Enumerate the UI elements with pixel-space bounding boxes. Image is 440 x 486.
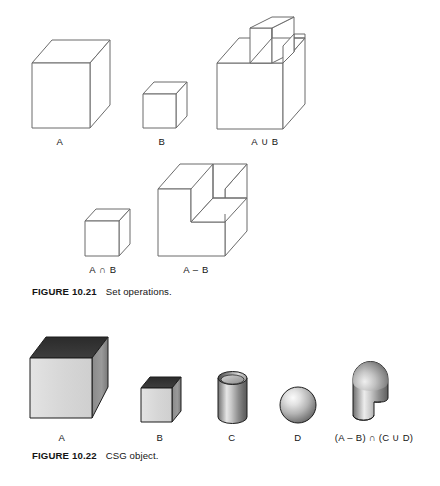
solid-cube-a-shape [30, 337, 108, 418]
figure-page: A B A ∪ B A ∩ B A – B FIGURE 10.21Set op… [0, 0, 440, 486]
label-intersection-a-b: A ∩ B [89, 264, 116, 275]
figure-10-21: A B A ∪ B A ∩ B A – B FIGURE 10.21Set op… [0, 0, 440, 310]
label-solid-cube-a: A [59, 432, 66, 443]
caption-title: FIGURE 10.21 [32, 286, 97, 297]
label-solid-cube-b: B [157, 432, 164, 443]
solid-cylinder-c-shape [218, 372, 247, 424]
caption-text: CSG object. [106, 450, 159, 461]
label-cube-a: A [57, 136, 64, 147]
union-a-b-shape [217, 17, 305, 129]
label-difference-a-b: A – B [183, 264, 209, 275]
cube-a-shape [32, 40, 110, 128]
difference-a-b-shape [158, 164, 247, 256]
label-solid-sphere-d: D [294, 432, 301, 443]
csg-result-shape [353, 362, 388, 421]
label-cube-b: B [159, 136, 166, 147]
figure-10-22: A B C D (A – B) ∩ (C ∪ D) FIGURE 10.22CS… [0, 312, 440, 486]
caption-title: FIGURE 10.22 [32, 450, 97, 461]
intersection-a-b-shape [85, 209, 130, 256]
label-union-a-b: A ∪ B [251, 136, 278, 147]
solid-cube-b-shape [141, 377, 181, 422]
cube-b-shape [143, 82, 187, 128]
label-csg-result: (A – B) ∩ (C ∪ D) [335, 432, 414, 443]
caption-figure-10-22: FIGURE 10.22CSG object. [32, 450, 159, 461]
caption-figure-10-21: FIGURE 10.21Set operations. [32, 286, 172, 297]
solid-sphere-d-shape [280, 387, 316, 423]
figure-10-21-artwork [0, 0, 440, 310]
label-solid-cylinder-c: C [228, 432, 235, 443]
caption-text: Set operations. [106, 286, 172, 297]
